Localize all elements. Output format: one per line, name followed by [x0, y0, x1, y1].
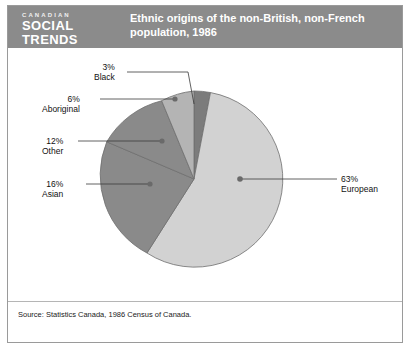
chart-header: CANADIAN SOCIAL TRENDS Ethnic origins of… — [8, 6, 402, 48]
slice-percent-aboriginal: 6% — [42, 94, 80, 104]
leader-dot-asian — [147, 181, 152, 186]
slice-label-other: 12% Other — [42, 136, 63, 156]
slice-percent-black: 3% — [94, 62, 115, 72]
brand-line-social: SOCIAL — [22, 19, 118, 33]
brand-line-trends: TRENDS — [22, 33, 118, 47]
chart-title: Ethnic origins of the non-British, non-F… — [130, 12, 380, 39]
slice-name-black: Black — [94, 72, 115, 82]
slice-percent-asian: 16% — [42, 179, 63, 189]
pie-chart-plot-area: 3% Black 6% Aboriginal 12% Other 16% Asi… — [8, 48, 402, 301]
publication-logo: CANADIAN SOCIAL TRENDS — [22, 11, 118, 46]
slice-name-other: Other — [42, 146, 63, 156]
slice-label-aboriginal: 6% Aboriginal — [42, 94, 80, 114]
chart-card: CANADIAN SOCIAL TRENDS Ethnic origins of… — [7, 5, 403, 343]
leader-dot-european — [237, 176, 243, 182]
slice-name-asian: Asian — [42, 189, 63, 199]
slice-name-aboriginal: Aboriginal — [42, 104, 80, 114]
slice-label-european: 63% European — [341, 174, 378, 194]
slice-name-european: European — [341, 184, 378, 194]
source-note: Source: Statistics Canada, 1986 Census o… — [18, 310, 191, 319]
slice-label-asian: 16% Asian — [42, 179, 63, 199]
slice-percent-european: 63% — [341, 174, 378, 184]
leader-dot-other — [159, 138, 164, 143]
slice-label-black: 3% Black — [94, 62, 115, 82]
leader-dot-aboriginal — [172, 96, 177, 101]
slice-percent-other: 12% — [42, 136, 63, 146]
footer-divider — [8, 301, 402, 302]
